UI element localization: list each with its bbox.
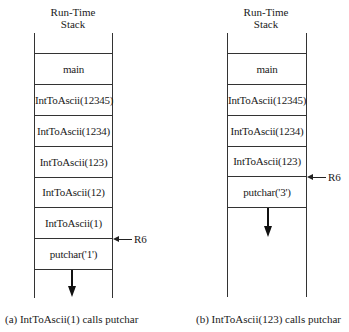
stack-frame: IntToAscii(1) — [35, 208, 112, 238]
stack-growth-arrow-shaft — [71, 270, 73, 287]
stack-frame: IntToAscii(12345) — [228, 85, 306, 115]
frame-divider — [34, 269, 113, 270]
caption-b: (b) IntToAscii(123) calls putchar — [196, 313, 341, 325]
title-line-2: Stack — [33, 18, 113, 30]
stack-title-a: Run-Time Stack — [33, 6, 113, 30]
stack-right-wall — [306, 33, 307, 297]
stack-frame: IntToAscii(123) — [228, 146, 306, 176]
stack-right-wall — [112, 33, 113, 298]
down-arrow-icon — [68, 286, 76, 297]
r6-pointer-line — [118, 239, 132, 240]
stack-title-b: Run-Time Stack — [226, 6, 306, 30]
stack-frame: IntToAscii(1234) — [228, 116, 306, 146]
r6-label: R6 — [134, 233, 147, 245]
stack-frame: putchar('3') — [228, 177, 306, 207]
r6-label: R6 — [328, 171, 341, 183]
title-line-1: Run-Time — [226, 6, 306, 18]
stack-frame: IntToAscii(1234) — [35, 116, 112, 146]
down-arrow-icon — [264, 226, 272, 237]
stack-growth-arrow-shaft — [267, 208, 269, 227]
r6-pointer-line — [312, 177, 326, 178]
stack-frame: IntToAscii(12345) — [35, 85, 112, 115]
stack-frame: IntToAscii(123) — [35, 147, 112, 177]
stack-frame: putchar('1') — [35, 239, 112, 269]
title-line-2: Stack — [226, 18, 306, 30]
title-line-1: Run-Time — [33, 6, 113, 18]
stack-frame: main — [35, 54, 112, 84]
caption-a: (a) IntToAscii(1) calls putchar — [5, 313, 138, 325]
stack-frame: main — [228, 54, 306, 84]
stack-frame: IntToAscii(12) — [35, 177, 112, 207]
